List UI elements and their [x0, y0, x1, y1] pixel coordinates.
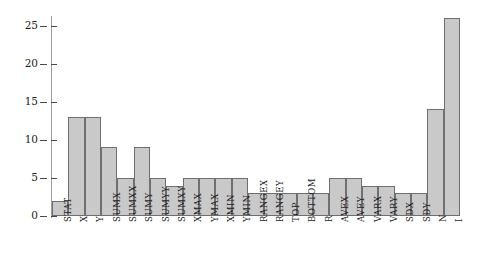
- x-tick-label: STAT: [64, 197, 73, 222]
- bar: [427, 109, 443, 216]
- x-tick-label: RANGEY: [276, 180, 285, 222]
- y-tick-mark-outer: [40, 178, 47, 179]
- bar-chart: 0510152025 STATXYSUMXSUMXXSUMYSUMYYSUMXY…: [0, 0, 483, 278]
- x-tick-label: N: [439, 214, 448, 222]
- x-tick-label: R: [325, 215, 334, 222]
- x-tick-label: TOP: [292, 202, 301, 222]
- x-tick-label: SUMXX: [129, 185, 138, 222]
- y-tick-mark-outer: [40, 64, 47, 65]
- x-tick-label: AVEY: [357, 196, 366, 222]
- y-tick-label: 25: [25, 19, 38, 32]
- x-tick-label: Y: [96, 216, 105, 222]
- x-tick-label: SUMYY: [162, 186, 171, 222]
- x-tick-label: XMIN: [227, 194, 236, 222]
- x-tick-label: X: [80, 215, 89, 222]
- x-tick-label: SDY: [423, 202, 432, 222]
- y-tick-mark-outer: [40, 216, 47, 217]
- bar: [85, 117, 101, 216]
- x-tick-label: SDX: [406, 202, 415, 223]
- y-tick-mark-inner: [51, 216, 57, 217]
- x-tick-label: RANGEX: [260, 179, 269, 222]
- bar: [444, 18, 460, 216]
- x-tick-label: YMIN: [243, 194, 252, 222]
- x-tick-label: XMAX: [194, 193, 203, 222]
- x-tick-label: I: [455, 218, 464, 222]
- y-tick-label: 0: [31, 209, 38, 222]
- plot-area: [52, 18, 460, 216]
- x-tick-label: YMAX: [211, 193, 220, 222]
- x-tick-label: VARY: [390, 196, 399, 222]
- y-tick-label: 10: [25, 133, 38, 146]
- x-tick-label: SUMXY: [178, 186, 187, 222]
- y-tick-mark-outer: [40, 26, 47, 27]
- y-tick-label: 20: [25, 57, 38, 70]
- x-tick-label: AVEX: [341, 195, 350, 222]
- y-tick-label: 15: [25, 95, 38, 108]
- x-tick-label: SUMY: [145, 192, 154, 222]
- y-tick-label: 5: [31, 171, 38, 184]
- x-tick-label: VARX: [374, 195, 383, 222]
- y-tick-mark-outer: [40, 102, 47, 103]
- x-axis-labels: STATXYSUMXSUMXXSUMYSUMYYSUMXYXMAXYMAXXMI…: [52, 220, 460, 278]
- y-tick-mark-outer: [40, 140, 47, 141]
- x-tick-label: BOTTOM: [308, 178, 317, 222]
- x-tick-label: SUMX: [113, 192, 122, 222]
